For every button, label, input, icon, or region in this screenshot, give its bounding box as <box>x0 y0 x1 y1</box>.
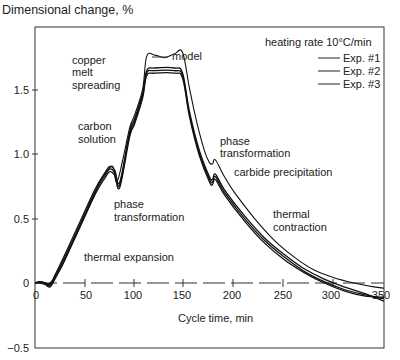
x-axis: 0 50 100 150 200 250 300 350 Cycle time,… <box>33 279 390 324</box>
legend-title: heating rate 10°C/min <box>265 36 372 48</box>
annotation-spreading: spreading <box>72 79 120 91</box>
legend-exp3: Exp. #3 <box>343 78 380 90</box>
annotation-copper: copper <box>72 54 106 66</box>
annotation-carbon: carbon <box>78 120 112 132</box>
annotation-transformation-2: transformation <box>220 147 290 159</box>
legend-exp2: Exp. #2 <box>343 65 380 77</box>
y-tick-label: 0 <box>23 277 29 289</box>
x-tick-label: 350 <box>372 289 390 301</box>
x-tick-label: 250 <box>274 289 292 301</box>
series-exp-3 <box>35 73 384 298</box>
legend: heating rate 10°C/min Exp. #1 Exp. #2 Ex… <box>265 36 380 90</box>
x-tick-label: 150 <box>173 289 191 301</box>
annotation-thermal-expansion: thermal expansion <box>84 251 174 263</box>
annotation-thermal: thermal <box>273 208 310 220</box>
series-exp-1 <box>35 70 384 298</box>
annotations: copper melt spreading carbon solution ph… <box>72 50 332 263</box>
x-tick-label: 50 <box>80 289 92 301</box>
chart-title: Dimensional change, % <box>2 3 133 17</box>
legend-exp1: Exp. #1 <box>343 52 380 64</box>
y-tick-label: 1.0 <box>14 148 29 160</box>
annotation-carbide-precipitation: carbide precipitation <box>234 166 332 178</box>
x-axis-label: Cycle time, min <box>178 312 253 324</box>
x-tick-label: 0 <box>33 289 39 301</box>
x-tick-label: 200 <box>223 289 241 301</box>
annotation-phase-2: phase <box>220 135 250 147</box>
series-exp-2 <box>35 67 384 301</box>
annotation-melt: melt <box>72 66 93 78</box>
annotation-phase: phase <box>114 198 144 210</box>
dimensional-change-chart: Dimensional change, % 1.5 1.0 0.5 0 −0.5… <box>0 0 400 360</box>
y-tick-label: 1.5 <box>14 84 29 96</box>
x-tick-label: 100 <box>124 289 142 301</box>
y-tick-label: 0.5 <box>14 213 29 225</box>
y-tick-label: −0.5 <box>7 342 29 354</box>
x-tick-label: 300 <box>322 289 340 301</box>
annotation-transformation: transformation <box>114 211 184 223</box>
annotation-solution: solution <box>78 133 116 145</box>
y-axis: 1.5 1.0 0.5 0 −0.5 <box>7 84 38 354</box>
annotation-contraction: contraction <box>273 221 327 233</box>
annotation-model: model <box>172 50 202 62</box>
